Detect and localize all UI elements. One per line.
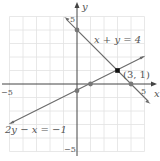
x-axis-arrow-icon [151,82,157,87]
graph: −5 5 5 −5 x y x + y = 4 (3, 1) 2y − x = … [0,0,160,161]
x-axis-label: x [154,88,160,99]
point-0-neg-half [75,88,80,93]
point-4-0 [129,82,134,87]
intersection-point [115,68,120,73]
y-tick-neg5: −5 [64,145,76,154]
point-0-4 [75,28,80,33]
intersection-label: (3, 1) [123,69,150,80]
x-tick-neg5: −5 [1,88,13,97]
point-1-0 [88,82,93,87]
eq2-label: 2y − x = −1 [4,124,67,135]
y-axis-arrow-icon [75,2,80,8]
y-tick-5: 5 [70,15,75,24]
y-axis-label: y [81,1,88,12]
eq1-label: x + y = 4 [94,34,141,45]
